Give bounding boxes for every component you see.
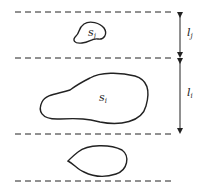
label-s-i: si [99,91,107,105]
label-l-i: li [187,86,193,100]
diagram-canvas: sj si lj li [0,0,203,192]
label-s-j: sj [88,26,97,40]
label-l-j: lj [187,26,194,40]
shape-s-i [40,73,148,123]
shape-unlabeled [68,146,127,176]
